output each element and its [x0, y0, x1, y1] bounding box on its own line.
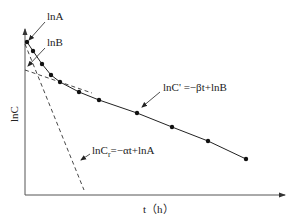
- data-point: [58, 80, 62, 84]
- x-axis-label: t（h）: [143, 204, 174, 215]
- observed-curve: [27, 42, 246, 159]
- data-point: [206, 139, 210, 143]
- data-point: [97, 98, 101, 102]
- lnA-label: lnA: [47, 11, 64, 22]
- alpha-eq-suffix: =−αt+lnA: [111, 144, 155, 156]
- beta-eq-pointer: [142, 92, 160, 107]
- data-markers: [25, 40, 248, 161]
- pharmacokinetic-plot: [0, 0, 292, 216]
- alpha-eq-prefix: lnC: [92, 144, 108, 156]
- data-point: [40, 62, 44, 66]
- alpha-eq-pointer: [81, 154, 90, 160]
- y-axis-label: lnC: [9, 106, 20, 122]
- alpha-equation-label: lnCr=−αt+lnA: [92, 145, 155, 159]
- lnA-pointer: [29, 22, 45, 40]
- data-point: [135, 111, 139, 115]
- data-point: [244, 157, 248, 161]
- lnB-label: lnB: [47, 37, 63, 48]
- data-point: [49, 73, 53, 77]
- residual-line-lnA: [25, 44, 84, 190]
- data-point: [170, 125, 174, 129]
- data-point: [77, 90, 81, 94]
- data-point: [25, 40, 29, 44]
- data-point: [31, 49, 35, 53]
- beta-equation-label: lnC' =−βt+lnB: [163, 82, 227, 93]
